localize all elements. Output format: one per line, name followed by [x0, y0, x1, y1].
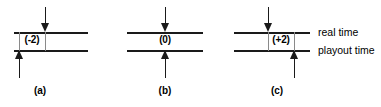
panel-a-offset-label: (-2) — [18, 34, 46, 45]
panel-c-caption: (c) — [262, 85, 292, 96]
panel-c-up-arrow — [290, 50, 299, 78]
playout-time-label: playout time — [318, 44, 375, 56]
panel-c-offset-label: (+2) — [266, 34, 296, 45]
panel-a-up-arrow — [15, 50, 24, 78]
panel-a-down-arrow — [41, 7, 50, 33]
panel-b-down-arrow — [161, 7, 170, 33]
panel-b-up-arrow — [161, 50, 170, 78]
panel-b-offset-label: (0) — [151, 34, 179, 45]
panel-c-down-arrow — [264, 7, 273, 33]
panel-a-playout-time-rule — [14, 50, 88, 52]
panel-b-caption: (b) — [150, 85, 180, 96]
panel-a-caption: (a) — [25, 85, 55, 96]
real-time-label: real time — [318, 26, 358, 38]
timing-offset-diagram: (-2) (a) (0) (b) — [0, 0, 381, 107]
